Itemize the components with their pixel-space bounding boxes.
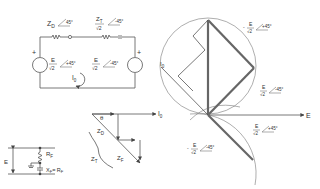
zd-angle: 45° [66,20,73,25]
rf-label: RF [46,151,53,159]
loop-arrow-icon [76,73,85,86]
resistor-zt-icon [102,35,110,39]
svg-text:E: E [262,84,266,90]
node-icon [68,35,71,38]
e-label: E [4,159,8,165]
svg-text:+45°: +45° [262,24,272,29]
svg-text:E: E [255,123,259,129]
phasor-label-low: E √2 +45° [253,123,278,136]
phasor-label-bottom: - E √2 -45° [187,142,215,155]
theta-label: θ [100,115,104,121]
capacitor-xf-icon [37,168,43,170]
xf-label: XF= RF [46,167,64,174]
svg-text:√2: √2 [247,29,252,34]
loop-current-label: I0 [72,74,77,83]
zt-label: ZT [91,156,98,164]
zd-label: ZD [97,128,105,136]
svg-text:-: - [187,145,189,151]
src-left-num: E [51,57,55,63]
diagram-canvas: + + ZD 45° ZT √2 -45° E √2 +45° E √2 -45… [0,0,320,189]
src-right-den: √2 [92,65,98,71]
zf-label: ZF [117,155,124,163]
voltage-source-right-icon [128,58,143,73]
zt-brace-icon [89,132,113,168]
phasor-diagram: E I0 - E √2 +45° E √2 -45° E [160,18,311,185]
svg-text:+45°: +45° [268,126,278,131]
series-circuit: + + ZD 45° ZT √2 -45° E √2 +45° E √2 -45… [32,16,143,88]
phasor-top-right [208,20,254,68]
svg-text:√2: √2 [260,92,265,97]
ground-icon [28,163,40,168]
resistor-rf-icon [38,152,42,163]
zd-label: ZD [47,20,55,29]
plus-right: + [137,49,141,56]
svg-text:-: - [243,24,245,30]
voltage-source-left-icon [33,58,48,73]
plus-left: + [32,49,36,56]
io-label: I0 [158,110,163,119]
zt-label: ZT [96,16,103,24]
phasor-bottom [208,115,253,160]
svg-text:E: E [249,21,253,27]
switch-icon [119,35,121,39]
e-axis-label: E [306,112,311,119]
phasor-label-mid: E √2 -45° [260,84,284,97]
zt-angle: -45° [115,19,124,24]
impedance-triangle: I0 θ ZD ZT ZF [89,110,163,168]
resistor-zd-icon [52,35,60,39]
construction-lines [178,20,208,91]
src-right-num: E [94,57,98,63]
io-label: I0 [160,61,165,69]
svg-text:-45°: -45° [206,145,215,150]
locus-arc [190,114,256,185]
phasor-label-top: - E √2 +45° [243,21,272,34]
src-left-den: √2 [49,65,55,71]
svg-text:√2: √2 [253,131,258,136]
src-left-angle: +45° [66,61,76,66]
svg-text:-45°: -45° [275,87,284,92]
src-right-angle: -45° [110,61,119,66]
fault-circuit: E RF XF= RF [4,147,64,176]
svg-text:√2: √2 [191,150,196,155]
svg-text:E: E [193,142,197,148]
zt-denominator: √2 [96,25,102,31]
